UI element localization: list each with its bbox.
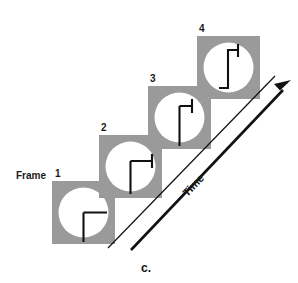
frame-1-number: 1 — [55, 168, 61, 179]
frames-time-diagram: Frame 1 2 3 4 Time c. — [0, 0, 298, 283]
frame-4-number: 4 — [199, 23, 205, 34]
panel-caption: c. — [141, 261, 151, 275]
frame-word-label: Frame — [16, 170, 46, 181]
frame-2-number: 2 — [101, 122, 107, 133]
figure-container: Frame 1 2 3 4 Time c. — [0, 0, 298, 283]
time-axis-arrowhead — [274, 80, 291, 91]
frame-4-group — [197, 36, 260, 99]
frame-3-number: 3 — [150, 73, 156, 84]
